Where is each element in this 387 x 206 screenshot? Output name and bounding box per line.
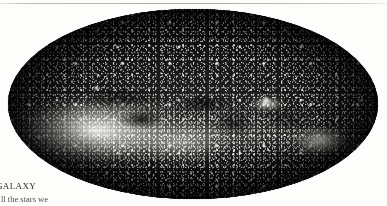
all-sky-ellipse: [8, 9, 378, 199]
caption-body-text: ll the stars we: [1, 194, 146, 205]
milky-way-all-sky-figure: [8, 9, 378, 199]
figure-caption: GALAXY ll the stars we: [0, 181, 146, 205]
top-horizontal-rule: [0, 3, 387, 4]
print-grain-overlay: [8, 9, 378, 199]
book-page: GALAXY ll the stars we: [0, 0, 387, 206]
caption-heading: GALAXY: [0, 181, 146, 192]
